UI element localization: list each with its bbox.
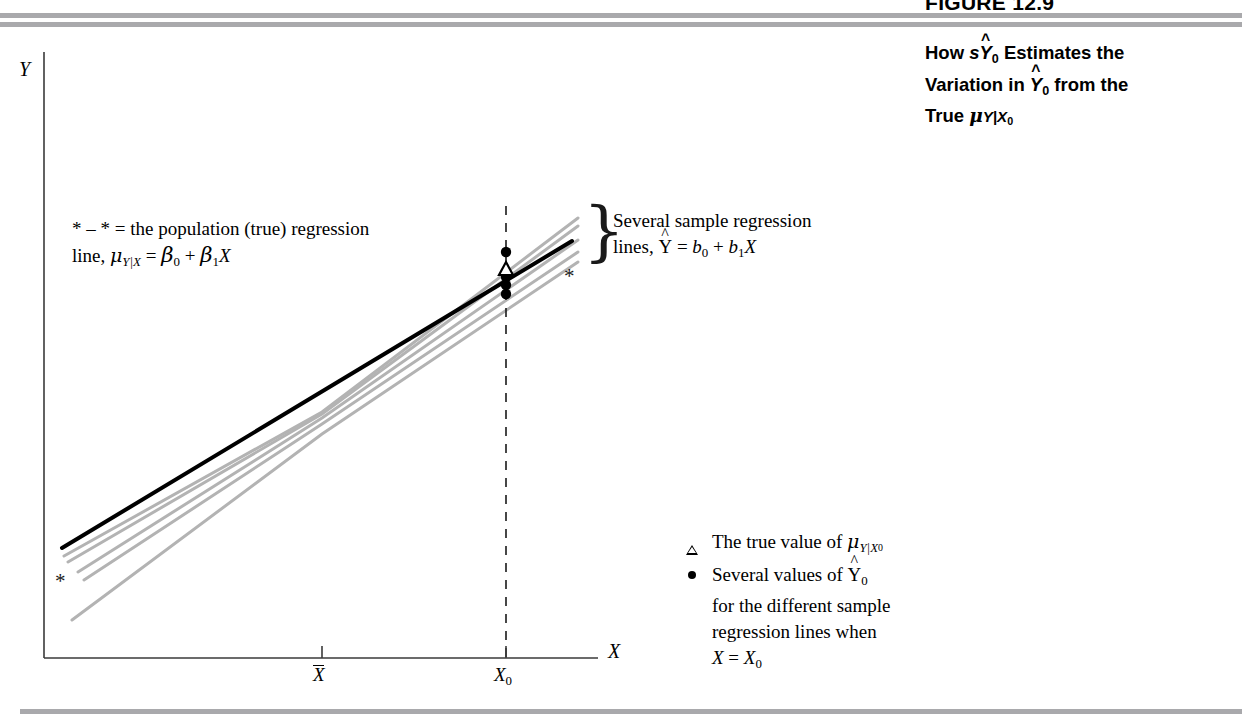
sample-line-5	[72, 262, 578, 620]
plot-svg	[0, 34, 680, 694]
star-marker-right: *	[564, 264, 575, 289]
population-regression-line	[62, 241, 572, 548]
sample-lines-annotation-line2: lines, ^Y = b0 + b1X	[613, 236, 756, 257]
x-axis-label: X	[608, 640, 620, 663]
top-rule-1	[0, 13, 1242, 18]
top-rule-2	[0, 22, 1242, 27]
sample-lines-annotation-line1: Several sample regression	[613, 210, 811, 231]
legend-item-true-value-text: The true value of μY|X0	[712, 531, 883, 552]
x-tick-label-x-zero: X0	[494, 664, 512, 689]
population-line-annotation-line2: line, μY|X = β0 + β1X	[72, 245, 231, 266]
bottom-rule	[20, 709, 1242, 714]
population-line-annotation: * – * = the population (true) regression…	[72, 216, 402, 275]
predicted-value-dot	[501, 289, 511, 299]
figure-page: FIGURE 12.9 How s^Y0 Estimates the Varia…	[0, 0, 1242, 724]
x-tick-label-x-bar: X	[313, 664, 325, 686]
open-triangle-icon	[681, 528, 703, 554]
sample-lines-annotation: Several sample regression lines, ^Y = b0…	[613, 208, 863, 266]
filled-circle-icon	[681, 562, 703, 588]
star-marker-left: *	[55, 569, 66, 594]
legend: The true value of μY|X0 Several values o…	[681, 528, 971, 678]
predicted-value-dot	[501, 280, 511, 290]
legend-item-true-value: The true value of μY|X0	[681, 528, 971, 561]
predicted-value-dot	[501, 247, 511, 257]
sample-line-4	[84, 252, 578, 580]
figure-number: FIGURE 12.9	[925, 0, 1054, 15]
legend-item-predicted-values-text: Several values of ^Y0 for the different …	[712, 564, 891, 669]
sample-regression-lines	[64, 218, 578, 620]
y-axis-label: Y	[19, 58, 30, 81]
figure-title: How s^Y0 Estimates the Variation in ^Y0 …	[925, 40, 1225, 134]
population-line-annotation-line1: * – * = the population (true) regression	[72, 218, 369, 239]
regression-plot: * *	[0, 34, 680, 694]
legend-item-predicted-values: Several values of ^Y0 for the different …	[681, 562, 971, 677]
